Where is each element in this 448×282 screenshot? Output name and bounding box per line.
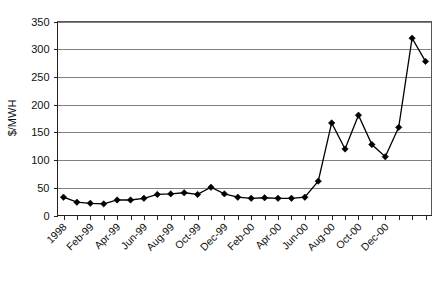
chart-canvas: 050100150200250300350 1998Feb-99Apr-99Ju… (0, 0, 448, 282)
y-tick-label: 0 (43, 210, 49, 222)
line-chart: 050100150200250300350 1998Feb-99Apr-99Ju… (0, 0, 448, 282)
y-tick-label: 250 (31, 71, 49, 83)
y-tick-label: 300 (31, 43, 49, 55)
y-tick-label: 350 (31, 16, 49, 28)
y-axis-title: $/MWH (6, 100, 18, 137)
y-tick-label: 100 (31, 154, 49, 166)
y-tick-label: 200 (31, 99, 49, 111)
y-tick-label: 50 (37, 182, 49, 194)
y-tick-label: 150 (31, 126, 49, 138)
